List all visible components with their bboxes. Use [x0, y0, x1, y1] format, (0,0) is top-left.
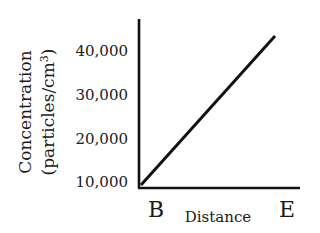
y-axis-units: (particles/cm3) [38, 49, 58, 176]
x-axis-title: Distance [185, 208, 252, 226]
y-tick-label-30000: 30,000 [76, 86, 129, 104]
y-axis-title: Concentration [15, 50, 35, 173]
line-chart: Concentration (particles/cm3) 40,000 30,… [0, 0, 320, 233]
data-line [141, 36, 275, 185]
chart-svg: Concentration (particles/cm3) 40,000 30,… [0, 0, 320, 233]
x-start-label: B [148, 197, 164, 222]
y-tick-label-40000: 40,000 [76, 42, 129, 60]
x-end-label: E [279, 197, 295, 222]
y-tick-label-20000: 20,000 [76, 130, 129, 148]
y-tick-label-10000: 10,000 [76, 173, 129, 191]
